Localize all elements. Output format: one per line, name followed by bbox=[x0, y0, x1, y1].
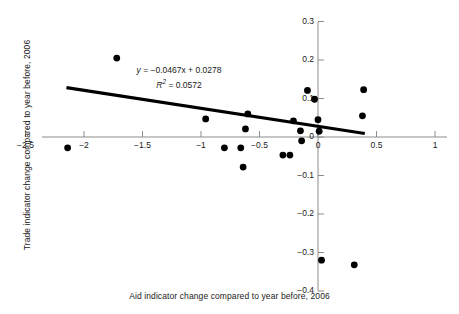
data-point bbox=[237, 144, 244, 151]
y-tick-label: 0.3 bbox=[286, 16, 314, 26]
x-tick-label: 0.5 bbox=[366, 140, 388, 150]
r-squared-label: R2 = 0.0572 bbox=[104, 76, 254, 91]
data-point bbox=[240, 164, 247, 171]
x-axis-ticks bbox=[26, 131, 436, 137]
y-tick-label: 0.2 bbox=[286, 54, 314, 64]
axes bbox=[42, 22, 447, 291]
data-point bbox=[202, 116, 209, 123]
data-point bbox=[113, 55, 120, 62]
regression-annotation: y = −0.0467x + 0.0278 R2 = 0.0572 bbox=[104, 64, 254, 91]
r-squared-value: = 0.0572 bbox=[166, 80, 202, 90]
data-point bbox=[64, 144, 71, 151]
data-point bbox=[318, 257, 325, 264]
data-point bbox=[244, 111, 251, 118]
x-axis-title: Aid indicator change compared to year be… bbox=[0, 291, 459, 301]
y-tick-label: −0.1 bbox=[286, 170, 314, 180]
data-point bbox=[221, 144, 228, 151]
trendline-segment bbox=[66, 88, 364, 134]
x-tick-label: 0 bbox=[307, 140, 329, 150]
data-point bbox=[360, 86, 367, 93]
scatter-plot-canvas bbox=[0, 0, 459, 314]
data-point bbox=[316, 128, 323, 135]
data-point bbox=[359, 112, 366, 119]
regression-equation: y = −0.0467x + 0.0278 bbox=[104, 64, 254, 76]
data-point bbox=[280, 152, 287, 159]
x-tick-label: −2 bbox=[73, 140, 95, 150]
trendline bbox=[66, 88, 364, 134]
data-point bbox=[290, 117, 297, 124]
data-point bbox=[315, 116, 322, 123]
data-point bbox=[287, 152, 294, 159]
x-tick-label: −0.5 bbox=[249, 140, 271, 150]
y-tick-label: −0.4 bbox=[286, 285, 314, 295]
x-tick-label: −2.5 bbox=[15, 140, 37, 150]
data-point bbox=[351, 261, 358, 268]
data-point bbox=[242, 126, 249, 133]
y-tick-label: −0.2 bbox=[286, 208, 314, 218]
y-axis-ticks bbox=[318, 22, 324, 292]
x-tick-label: −1 bbox=[190, 140, 212, 150]
y-tick-label: −0.3 bbox=[286, 247, 314, 257]
x-tick-label: −1.5 bbox=[132, 140, 154, 150]
x-tick-label: 1 bbox=[424, 140, 446, 150]
y-tick-label: 0.1 bbox=[286, 93, 314, 103]
regression-equation-body: = −0.0467x + 0.0278 bbox=[141, 65, 222, 75]
y-tick-label: 0 bbox=[286, 131, 314, 141]
